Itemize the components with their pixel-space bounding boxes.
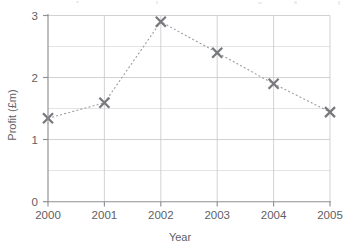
x-tick-label-2003: 2003 [204, 209, 230, 221]
profit-year-chart: 0 1 2 3 2000 2001 2002 2003 2004 2005 Ye… [0, 0, 351, 248]
y-tick-label-1: 1 [32, 134, 38, 146]
y-tick-label-2: 2 [32, 72, 38, 84]
y-tick-label-0: 0 [32, 196, 38, 208]
x-tick-label-2004: 2004 [261, 209, 287, 221]
x-tick-label-2001: 2001 [92, 209, 118, 221]
y-tick-label-3: 3 [32, 10, 38, 22]
x-axis-title: Year [169, 231, 192, 243]
x-tick-label-2002: 2002 [148, 209, 174, 221]
x-tick-label-2005: 2005 [317, 209, 343, 221]
y-axis-title: Profit (£m) [6, 89, 18, 140]
x-tick-label-2000: 2000 [35, 209, 61, 221]
chart-canvas: 0 1 2 3 2000 2001 2002 2003 2004 2005 Ye… [0, 0, 351, 248]
